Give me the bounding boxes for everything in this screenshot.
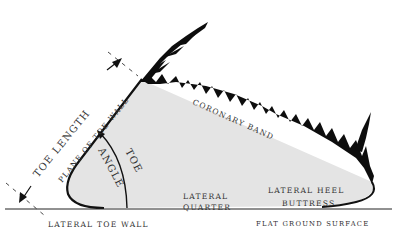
lateral-quarter-label-line1: LATERAL bbox=[183, 192, 228, 201]
lateral-toe-wall-label: LATERAL TOE WALL bbox=[48, 220, 149, 229]
flat-ground-surface-label: FLAT GROUND SURFACE bbox=[256, 220, 369, 228]
lateral-heel-buttress-label-line2: BUTTRESS bbox=[282, 199, 335, 208]
lateral-heel-buttress-label-line1: LATERAL HEEL bbox=[268, 186, 345, 195]
toe-length-ext-bottom bbox=[6, 183, 44, 215]
toe-length-ext-top bbox=[108, 52, 138, 76]
hoof-diagram: TOE LENGTH PLANE OF TOE WALL TOE ANGLE C… bbox=[0, 0, 398, 235]
lateral-quarter-label-line2: QUARTER bbox=[183, 203, 231, 212]
hair-tuft-icon bbox=[140, 22, 208, 82]
